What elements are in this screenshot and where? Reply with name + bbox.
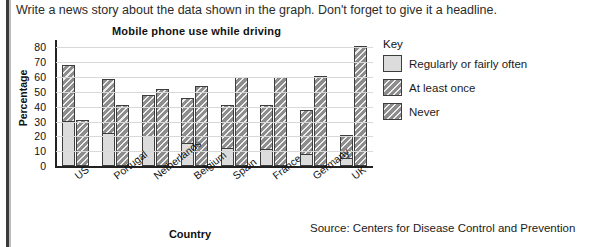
hatched-swatch [383, 79, 402, 96]
x-tick-cell: Portugal [96, 168, 136, 226]
gridline [56, 47, 373, 48]
gridline [56, 107, 373, 108]
chart-plot: Percentage 01020304050607080 USPortugalN… [0, 40, 380, 190]
source-caption: Source: Centers for Disease Control and … [310, 222, 575, 234]
legend-items: Regularly or fairly oftenAt least onceNe… [383, 55, 597, 120]
worksheet-page: Write a news story about the data shown … [0, 0, 597, 247]
segment-never [77, 121, 88, 165]
y-tick-label: 30 [34, 116, 46, 128]
segment-regularly-or-fairly-often [63, 121, 74, 165]
y-tick-label: 20 [34, 130, 46, 142]
task-instruction: Write a news story about the data shown … [16, 3, 586, 18]
bar-group [294, 40, 334, 166]
x-tick-cell: Belgium [175, 168, 215, 226]
y-tick-label: 0 [40, 160, 46, 172]
y-tick-label: 50 [34, 86, 46, 98]
x-tick-cell: Germany [294, 168, 334, 226]
legend-item-label: Regularly or fairly often [409, 58, 527, 70]
gridline [56, 122, 373, 123]
legend-item-label: At least once [409, 82, 475, 94]
bar-group [96, 40, 136, 166]
light-solid-swatch [383, 55, 402, 72]
chart-title: Mobile phone use while driving [112, 25, 281, 37]
bar-group [254, 40, 294, 166]
gridline [56, 92, 373, 93]
chart-legend: Key Regularly or fairly oftenAt least on… [383, 38, 597, 127]
y-tick-label: 80 [34, 41, 46, 53]
segment-at-least-once [261, 106, 272, 149]
gridline [56, 62, 373, 63]
segment-never [196, 87, 207, 165]
bar-at-least-once [300, 110, 313, 166]
y-tick-label: 40 [34, 101, 46, 113]
segment-regularly-or-fairly-often [103, 133, 114, 165]
y-axis-ticks: 01020304050607080 [22, 40, 52, 166]
x-tick-cell: UK [333, 168, 373, 226]
bar-group [215, 40, 255, 166]
segment-never [157, 90, 168, 165]
x-tick-cell: Netherlands [135, 168, 175, 226]
bar-group [333, 40, 373, 166]
x-tick-cell: US [56, 168, 96, 226]
hatched-swatch [383, 103, 402, 120]
legend-item: Regularly or fairly often [383, 55, 597, 72]
bar-groups [56, 40, 373, 166]
plot-area [56, 40, 373, 166]
bar-never [195, 86, 208, 166]
segment-at-least-once [143, 96, 154, 136]
legend-title: Key [383, 38, 597, 50]
segment-at-least-once [301, 111, 312, 154]
legend-item-label: Never [409, 106, 440, 118]
legend-item: Never [383, 103, 597, 120]
bar-group [56, 40, 96, 166]
y-tick-label: 60 [34, 71, 46, 83]
legend-item: At least once [383, 79, 597, 96]
gridline [56, 77, 373, 78]
segment-at-least-once [222, 106, 233, 148]
gridline [56, 136, 373, 137]
bar-never [156, 89, 169, 166]
segment-at-least-once [63, 66, 74, 121]
x-tick-cell: Spain [215, 168, 255, 226]
bar-never [76, 120, 89, 166]
y-tick-label: 70 [34, 56, 46, 68]
x-tick-cell: France [254, 168, 294, 226]
y-tick-label: 10 [34, 145, 46, 157]
x-axis-tick-labels: USPortugalNetherlandsBelgiumSpainFranceG… [56, 168, 373, 226]
